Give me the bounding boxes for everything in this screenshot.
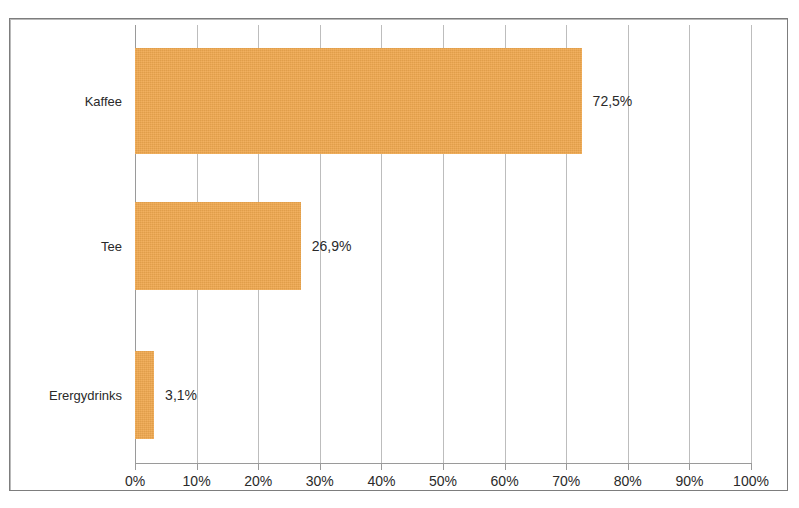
x-tick-label-0: 0%: [125, 473, 145, 489]
x-tick-10: [197, 463, 198, 470]
x-tick-0: [135, 463, 136, 470]
bar-erergydrinks: [135, 351, 154, 439]
gridline-90: [689, 25, 690, 463]
bar-kaffee: [135, 48, 582, 154]
chart-screenshot: 0%10%20%30%40%50%60%70%80%90%100% 72,5%2…: [0, 0, 799, 508]
bar-value-erergydrinks: 3,1%: [165, 387, 197, 403]
x-tick-label-90: 90%: [675, 473, 703, 489]
bar-value-tee: 26,9%: [312, 238, 352, 254]
x-tick-label-80: 80%: [614, 473, 642, 489]
bar-tee: [135, 202, 301, 290]
x-tick-20: [258, 463, 259, 470]
x-tick-70: [566, 463, 567, 470]
x-tick-label-100: 100%: [733, 473, 769, 489]
category-label-tee: Tee: [101, 239, 122, 254]
x-tick-40: [381, 463, 382, 470]
x-tick-label-50: 50%: [429, 473, 457, 489]
category-label-erergydrinks: Erergydrinks: [49, 388, 122, 403]
gridline-80: [628, 25, 629, 463]
plot-area: 0%10%20%30%40%50%60%70%80%90%100% 72,5%2…: [135, 25, 751, 463]
x-tick-50: [443, 463, 444, 470]
x-tick-label-40: 40%: [367, 473, 395, 489]
x-tick-30: [320, 463, 321, 470]
x-tick-100: [751, 463, 752, 470]
x-tick-label-30: 30%: [306, 473, 334, 489]
clipped-top-caption: [118, 0, 678, 5]
x-tick-label-10: 10%: [183, 473, 211, 489]
x-tick-90: [689, 463, 690, 470]
bar-value-kaffee: 72,5%: [593, 93, 633, 109]
x-tick-label-60: 60%: [491, 473, 519, 489]
x-tick-label-20: 20%: [244, 473, 272, 489]
gridline-100: [751, 25, 752, 463]
x-tick-80: [628, 463, 629, 470]
chart-frame: 0%10%20%30%40%50%60%70%80%90%100% 72,5%2…: [9, 18, 788, 491]
category-label-kaffee: Kaffee: [85, 94, 122, 109]
x-tick-label-70: 70%: [552, 473, 580, 489]
x-tick-60: [505, 463, 506, 470]
